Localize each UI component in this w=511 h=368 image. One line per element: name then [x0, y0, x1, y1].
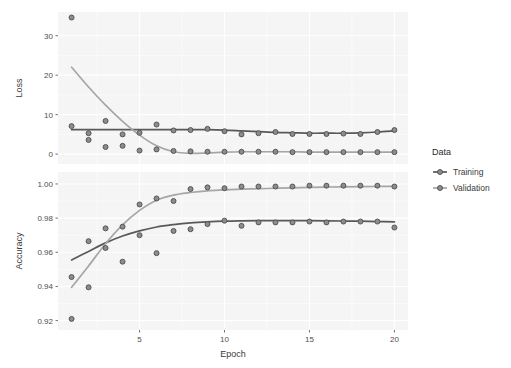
x-tick-label: 5: [137, 335, 142, 344]
data-point: [273, 184, 278, 189]
data-point: [290, 131, 295, 136]
x-axis-title: Epoch: [220, 349, 246, 359]
data-point: [392, 184, 397, 189]
x-tick-label: 15: [305, 335, 314, 344]
legend-item-label: Training: [453, 167, 484, 177]
data-point: [171, 199, 176, 204]
legend-key-point: [438, 186, 443, 191]
data-point: [137, 148, 142, 153]
data-point: [341, 219, 346, 224]
data-point: [120, 132, 125, 137]
data-point: [137, 202, 142, 207]
legend-item-validation[interactable]: Validation: [430, 181, 506, 195]
data-point: [69, 124, 74, 129]
legend-key-point: [438, 170, 443, 175]
data-point: [222, 186, 227, 191]
data-point: [307, 150, 312, 155]
data-point: [239, 132, 244, 137]
data-point: [256, 220, 261, 225]
data-point: [103, 118, 108, 123]
data-point: [324, 150, 329, 155]
data-point: [188, 128, 193, 133]
y-tick-label: 0.96: [37, 248, 53, 257]
y-tick-label: 0.98: [37, 214, 53, 223]
data-point: [392, 150, 397, 155]
data-point: [120, 143, 125, 148]
data-point: [222, 218, 227, 223]
legend-item-training[interactable]: Training: [430, 165, 506, 179]
data-point: [324, 220, 329, 225]
data-point: [273, 149, 278, 154]
data-point: [154, 251, 159, 256]
faceted-scatter-chart: 0102030Loss0.920.940.960.981.00Accuracy5…: [0, 0, 511, 368]
data-point: [171, 228, 176, 233]
data-point: [392, 128, 397, 133]
y-tick-label: 1.00: [37, 180, 53, 189]
data-point: [358, 219, 363, 224]
data-point: [273, 220, 278, 225]
data-point: [392, 225, 397, 230]
data-point: [307, 219, 312, 224]
data-point: [290, 184, 295, 189]
data-point: [103, 145, 108, 150]
y-tick-label: 10: [44, 111, 53, 120]
x-tick-label: 20: [390, 335, 399, 344]
data-point: [375, 130, 380, 135]
data-point: [103, 226, 108, 231]
data-point: [256, 149, 261, 154]
data-point: [171, 128, 176, 133]
data-point: [154, 196, 159, 201]
chart-root: 0102030Loss0.920.940.960.981.00Accuracy5…: [0, 0, 511, 368]
data-point: [120, 259, 125, 264]
data-point: [171, 148, 176, 153]
data-point: [358, 131, 363, 136]
y-tick-label: 30: [44, 32, 53, 41]
data-point: [375, 183, 380, 188]
data-point: [358, 183, 363, 188]
data-point: [256, 184, 261, 189]
data-point: [341, 131, 346, 136]
data-point: [69, 316, 74, 321]
data-point: [86, 137, 91, 142]
data-point: [120, 224, 125, 229]
y-axis-accuracy: 0.920.940.960.981.00: [37, 180, 58, 326]
legend: DataTrainingValidation: [430, 147, 506, 195]
legend-item-label: Validation: [453, 183, 490, 193]
data-point: [69, 275, 74, 280]
data-point: [239, 223, 244, 228]
data-point: [69, 15, 74, 20]
data-point: [307, 183, 312, 188]
data-point: [290, 150, 295, 155]
y-tick-label: 0.92: [37, 317, 53, 326]
data-point: [324, 131, 329, 136]
data-point: [188, 149, 193, 154]
data-point: [86, 131, 91, 136]
data-point: [86, 239, 91, 244]
y-tick-label: 0.94: [37, 282, 53, 291]
x-axis: 5101520: [137, 330, 399, 344]
data-point: [290, 220, 295, 225]
data-point: [358, 150, 363, 155]
data-point: [103, 246, 108, 251]
data-point: [341, 183, 346, 188]
panel-background-loss: [58, 12, 408, 164]
data-point: [205, 126, 210, 131]
data-point: [137, 233, 142, 238]
data-point: [273, 130, 278, 135]
data-point: [86, 285, 91, 290]
y-axis-title-accuracy: Accuracy: [14, 232, 24, 270]
legend-title: Data: [432, 147, 451, 157]
data-point: [341, 150, 346, 155]
data-point: [222, 129, 227, 134]
data-point: [205, 149, 210, 154]
y-tick-label: 20: [44, 71, 53, 80]
y-axis-loss: 0102030: [44, 32, 58, 159]
data-point: [256, 131, 261, 136]
panel-background-accuracy: [58, 172, 408, 330]
data-point: [137, 130, 142, 135]
x-tick-label: 10: [220, 335, 229, 344]
data-point: [324, 183, 329, 188]
data-point: [307, 131, 312, 136]
data-point: [239, 149, 244, 154]
data-point: [205, 185, 210, 190]
